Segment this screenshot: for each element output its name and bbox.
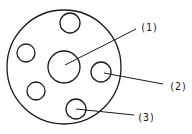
diagram-canvas: (1) (2) (3): [0, 0, 192, 134]
leader-line-1: [65, 29, 136, 65]
label-3: (3): [137, 112, 155, 123]
hole-left: [17, 44, 35, 62]
label-2: (2): [169, 81, 187, 92]
label-1: (1): [140, 22, 158, 33]
hole-bottom-left: [27, 82, 45, 100]
outer-disc: [7, 10, 121, 124]
hole-top: [60, 13, 80, 33]
hole-right: [91, 62, 111, 82]
center-hole: [48, 51, 80, 83]
leader-line-2: [104, 73, 163, 84]
